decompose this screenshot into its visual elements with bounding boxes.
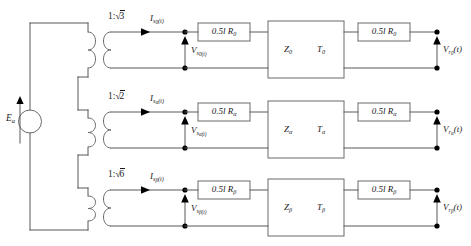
sending-voltage-label-beta: Vsβ(t) (191, 204, 206, 213)
left-resistor-beta: 0.5l Rβ (198, 185, 250, 194)
source-bus (30, 23, 88, 230)
line-delay-zero: T0 (317, 45, 325, 54)
right-resistor-alpha: 0.5l Rα (358, 107, 410, 116)
line-delay-beta: Tβ (317, 203, 325, 212)
right-resistor-zero: 0.5l R0 (358, 27, 410, 36)
source-label: Ea (6, 114, 15, 124)
sending-voltage-label-zero: Vs0(t) (191, 46, 206, 55)
transformer-ratio-zero: 1:√3 (108, 12, 125, 22)
left-resistor-zero: 0.5l R0 (198, 27, 250, 36)
line-impedance-beta: Zβ (284, 203, 292, 212)
line-delay-alpha: Tα (317, 125, 325, 134)
transformer-ratio-beta: 1:√6 (108, 170, 125, 180)
transformer-ratio-alpha: 1:√2 (108, 92, 125, 102)
voltage-source-symbol (16, 96, 41, 143)
figure-canvas: Ea 1:√3 Is0(t) Vs0(t) 0.5l R0 Z0 T0 0.5l… (0, 0, 471, 246)
receiving-voltage-label-alpha: Vrα(t) (443, 125, 462, 134)
line-impedance-alpha: Zα (284, 125, 292, 134)
current-label-beta: Isβ(t) (150, 172, 164, 181)
line-impedance-zero: Z0 (284, 45, 292, 54)
current-label-zero: Is0(t) (150, 14, 164, 23)
receiving-voltage-label-beta: Vrβ(t) (443, 203, 462, 212)
right-resistor-beta: 0.5l Rβ (358, 185, 410, 194)
current-label-alpha: Isα(t) (150, 94, 164, 103)
receiving-voltage-label-zero: Vr0(t) (443, 45, 462, 54)
sending-voltage-label-alpha: Vsα(t) (191, 126, 207, 135)
left-resistor-alpha: 0.5l Rα (198, 107, 250, 116)
